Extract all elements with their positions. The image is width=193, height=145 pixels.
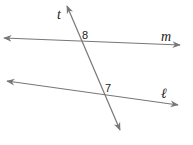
label-t: t bbox=[57, 8, 61, 22]
line-t bbox=[67, 6, 120, 130]
angle-8-label: 8 bbox=[82, 30, 88, 41]
lines-svg bbox=[0, 0, 193, 145]
angle-7-label: 7 bbox=[105, 83, 111, 94]
line-m bbox=[4, 38, 180, 45]
label-m: m bbox=[161, 30, 171, 44]
line-l bbox=[7, 81, 178, 105]
diagram-canvas: t m ℓ 8 7 bbox=[0, 0, 193, 145]
label-l: ℓ bbox=[161, 87, 167, 101]
